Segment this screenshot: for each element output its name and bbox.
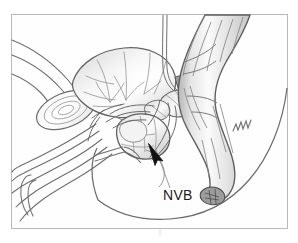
anal-canal-group <box>200 187 225 205</box>
prostate-inner-lobe <box>120 120 147 142</box>
anal-canal <box>200 187 225 205</box>
illustration-canvas: NVB <box>0 0 298 243</box>
nvb-label: NVB <box>163 187 193 203</box>
figure-root: NVB <box>0 0 298 243</box>
anatomical-illustration: NVB <box>0 0 298 243</box>
bladder-highlight <box>117 60 165 92</box>
